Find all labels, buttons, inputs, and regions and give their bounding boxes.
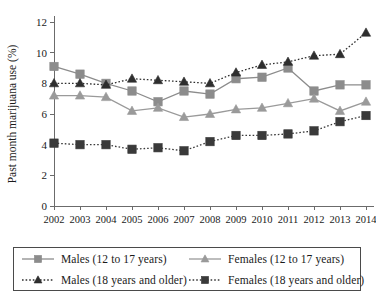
data-point-marker bbox=[154, 144, 162, 152]
data-point-marker bbox=[180, 147, 188, 155]
x-tick-label: 2010 bbox=[252, 214, 273, 225]
x-tick-label: 2014 bbox=[356, 214, 376, 225]
data-point-marker bbox=[284, 130, 292, 138]
data-point-marker bbox=[361, 97, 370, 105]
chart-tick-labels: 0246810122002200320042005200620072008200… bbox=[36, 16, 376, 225]
data-point-marker bbox=[49, 91, 58, 99]
legend-item-label: Males (12 to 17 years) bbox=[61, 253, 167, 265]
legend-item[interactable]: Females (18 years and older) bbox=[186, 274, 362, 286]
y-tick-label: 4 bbox=[42, 139, 48, 151]
data-point-marker bbox=[180, 87, 188, 95]
legend-marker-square-icon bbox=[188, 274, 222, 286]
data-point-marker bbox=[34, 255, 41, 262]
y-tick-label: 6 bbox=[42, 108, 48, 120]
data-point-marker bbox=[76, 70, 84, 78]
x-tick-label: 2009 bbox=[226, 214, 247, 225]
x-tick-label: 2007 bbox=[174, 214, 195, 225]
legend-item-label: Males (18 years and older) bbox=[61, 274, 187, 286]
data-point-marker bbox=[362, 81, 370, 89]
y-tick-label: 10 bbox=[36, 47, 48, 59]
data-point-marker bbox=[206, 137, 214, 145]
y-tick-label: 0 bbox=[42, 200, 48, 212]
data-point-marker bbox=[206, 90, 214, 98]
data-point-marker bbox=[336, 117, 344, 125]
x-tick-label: 2002 bbox=[44, 214, 65, 225]
data-point-marker bbox=[362, 111, 370, 119]
data-point-marker bbox=[102, 140, 110, 148]
x-tick-label: 2005 bbox=[122, 214, 143, 225]
y-tick-label: 2 bbox=[42, 169, 48, 181]
x-tick-label: 2012 bbox=[304, 214, 325, 225]
data-point-marker bbox=[128, 87, 136, 95]
series-line bbox=[54, 33, 366, 85]
x-tick-label: 2011 bbox=[278, 214, 299, 225]
data-point-marker bbox=[205, 79, 214, 87]
chart-series-layer bbox=[49, 28, 370, 155]
chart-series bbox=[50, 111, 370, 155]
data-point-marker bbox=[50, 139, 58, 147]
data-point-marker bbox=[258, 73, 266, 81]
legend-item[interactable]: Males (18 years and older) bbox=[14, 274, 186, 286]
chart-legend: Males (12 to 17 years)Females (12 to 17 … bbox=[13, 247, 361, 291]
data-point-marker bbox=[232, 131, 240, 139]
chart-figure: 0246810122002200320042005200620072008200… bbox=[0, 0, 376, 298]
x-tick-label: 2003 bbox=[70, 214, 91, 225]
data-point-marker bbox=[309, 51, 318, 59]
y-tick-label: 12 bbox=[36, 16, 47, 28]
legend-marker-triangle-icon bbox=[188, 253, 222, 265]
data-point-marker bbox=[310, 127, 318, 135]
data-point-marker bbox=[75, 91, 84, 99]
legend-marker-triangle-icon bbox=[21, 274, 55, 286]
y-tick-label: 8 bbox=[42, 77, 48, 89]
chart-series bbox=[49, 28, 370, 88]
x-tick-label: 2008 bbox=[200, 214, 221, 225]
data-point-marker bbox=[127, 74, 136, 82]
x-tick-label: 2004 bbox=[96, 214, 118, 225]
data-point-marker bbox=[201, 276, 208, 283]
legend-item-label: Females (18 years and older) bbox=[228, 274, 364, 286]
x-tick-label: 2006 bbox=[148, 214, 169, 225]
data-point-marker bbox=[336, 81, 344, 89]
data-point-marker bbox=[49, 79, 58, 87]
legend-marker-square-icon bbox=[21, 253, 55, 265]
data-point-marker bbox=[76, 140, 84, 148]
chart-axis-title: Past month marijuana use (%) bbox=[6, 45, 19, 184]
data-point-marker bbox=[258, 131, 266, 139]
y-axis-title: Past month marijuana use (%) bbox=[6, 45, 19, 184]
data-point-marker bbox=[75, 79, 84, 87]
data-point-marker bbox=[128, 145, 136, 153]
data-point-marker bbox=[361, 28, 370, 36]
data-point-marker bbox=[335, 49, 344, 57]
legend-item-label: Females (12 to 17 years) bbox=[228, 253, 344, 265]
data-point-marker bbox=[50, 62, 58, 70]
legend-item[interactable]: Males (12 to 17 years) bbox=[14, 253, 186, 265]
data-point-marker bbox=[257, 60, 266, 68]
x-tick-label: 2013 bbox=[330, 214, 351, 225]
legend-item[interactable]: Females (12 to 17 years) bbox=[186, 253, 362, 265]
